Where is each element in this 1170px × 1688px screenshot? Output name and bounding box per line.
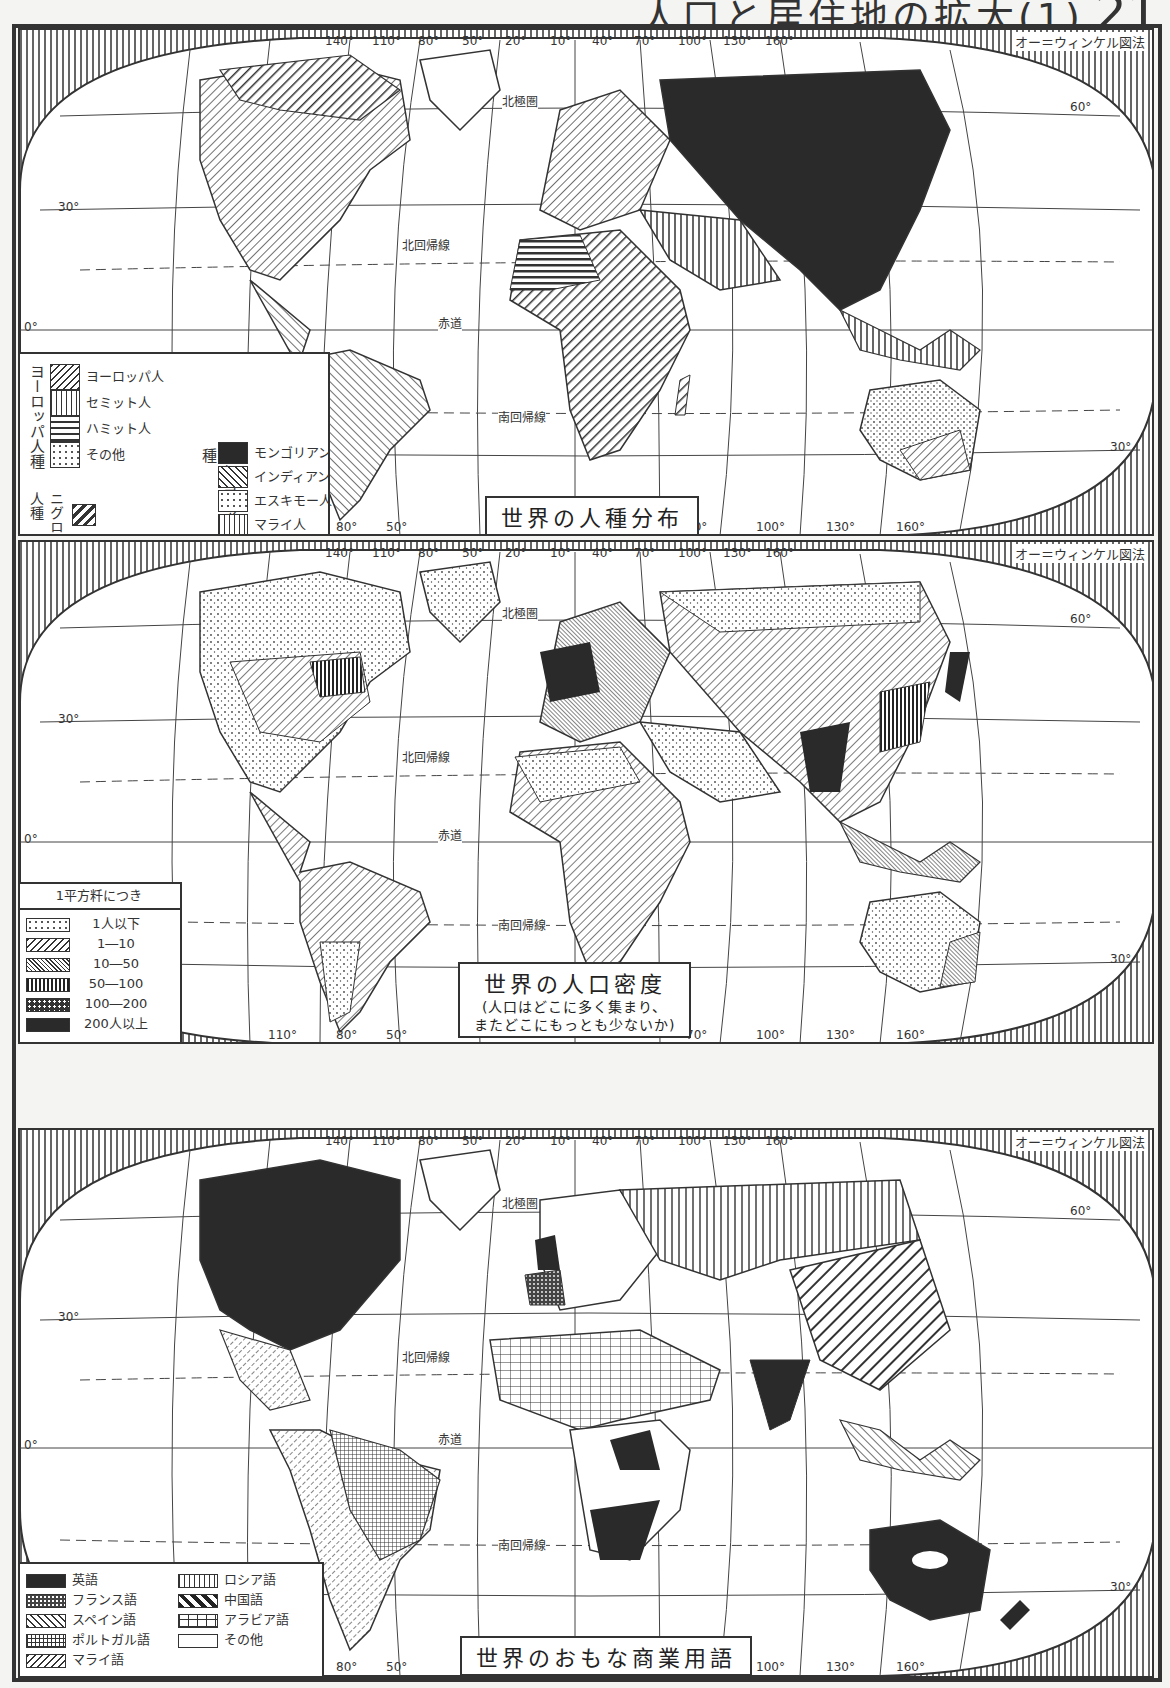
longitude-label: 140° (325, 1134, 354, 1148)
longitude-label: 70° (634, 1134, 655, 1148)
map-title-race: 世界の人種分布 (485, 496, 699, 536)
longitude-label: 110° (372, 34, 401, 48)
latitude-label: 0° (24, 1438, 38, 1452)
longitude-label: 110° (372, 1134, 401, 1148)
legend-item: 1人以下 (26, 914, 172, 934)
legend-race: ヨーロッパ人種 ヨーロッパ人 セミット人 ハミット人 その他 ニグロ人種 モンゴ… (18, 352, 330, 536)
tropic-cancer-label: 北回帰線 (402, 1348, 450, 1365)
latitude-label: 30° (1110, 1580, 1131, 1594)
legend-density: 1平方粁につき 1人以下 1―10 10―50 50―100 100―200 2… (18, 882, 182, 1044)
longitude-label: 130° (826, 1028, 855, 1042)
equator-label: 赤道 (438, 314, 462, 331)
tropic-capricorn-label: 南回帰線 (498, 408, 546, 425)
legend-item: 100―200 (26, 994, 172, 1014)
longitude-label: 20° (505, 546, 526, 560)
latitude-label: 0° (24, 832, 38, 846)
longitude-label: 100° (678, 546, 707, 560)
longitude-label: 130° (723, 546, 752, 560)
legend-item: ハミット人 (50, 416, 164, 436)
longitude-label: 160° (765, 1134, 794, 1148)
latitude-label: 0° (24, 320, 38, 334)
longitude-label: 20° (505, 34, 526, 48)
swatch-icon (26, 1574, 66, 1588)
latitude-label: 30° (58, 200, 79, 214)
longitude-label: 20° (505, 1134, 526, 1148)
longitude-label: 50° (386, 1660, 407, 1674)
legend-item: マライ人 (218, 514, 332, 534)
longitude-label: 110° (372, 546, 401, 560)
map-title-text: 世界の人口密度 (484, 972, 666, 997)
longitude-label: 80° (336, 520, 357, 534)
swatch-icon (26, 998, 70, 1012)
swatch-icon (50, 442, 80, 468)
tropic-cancer-label: 北回帰線 (402, 748, 450, 765)
swatch-icon (218, 514, 248, 536)
swatch-icon (72, 504, 96, 526)
swatch-icon (218, 442, 248, 464)
legend-item: 中国語 (178, 1590, 289, 1610)
longitude-label: 140° (325, 34, 354, 48)
swatch-icon (178, 1614, 218, 1628)
latitude-label: 60° (1070, 1204, 1091, 1218)
projection-label: オー＝ウィンケル図法 (1012, 1132, 1148, 1151)
swatch-icon (50, 390, 80, 416)
swatch-icon (178, 1634, 218, 1648)
latitude-label: 30° (1110, 952, 1131, 966)
arctic-circle-label: 北極圏 (502, 92, 538, 109)
swatch-icon (26, 938, 70, 952)
longitude-label: 80° (418, 34, 439, 48)
latitude-label: 30° (58, 1310, 79, 1324)
swatch-icon (26, 958, 70, 972)
latitude-label: 30° (58, 712, 79, 726)
longitude-label: 10° (550, 34, 571, 48)
legend-item: ロシア語 (178, 1570, 289, 1590)
legend-item: エスキモー人 (218, 490, 332, 510)
tropic-cancer-label: 北回帰線 (402, 236, 450, 253)
longitude-label: 130° (723, 34, 752, 48)
longitude-label: 160° (765, 546, 794, 560)
swatch-icon (178, 1574, 218, 1588)
longitude-label: 100° (756, 520, 785, 534)
longitude-label: 160° (896, 1028, 925, 1042)
longitude-label: 80° (418, 546, 439, 560)
longitude-label: 70° (634, 546, 655, 560)
longitude-label: 50° (386, 520, 407, 534)
legend-item: モンゴリアン (218, 442, 332, 462)
longitude-label: 40° (592, 546, 613, 560)
longitude-label: 40° (592, 34, 613, 48)
longitude-label: 70° (634, 34, 655, 48)
map-panel-language: 140° 110° 80° 50° 20° 10° 40° 70° 100° 1… (18, 1128, 1154, 1678)
tropic-capricorn-label: 南回帰線 (498, 1536, 546, 1553)
projection-label: オー＝ウィンケル図法 (1012, 32, 1148, 51)
swatch-icon (26, 978, 70, 992)
map-subtitle: (人口はどこに多く集まり、 (474, 998, 675, 1016)
swatch-icon (26, 1634, 66, 1648)
equator-label: 赤道 (438, 826, 462, 843)
longitude-label: 160° (896, 1660, 925, 1674)
latitude-label: 60° (1070, 612, 1091, 626)
longitude-label: 100° (756, 1660, 785, 1674)
legend-item: セミット人 (50, 390, 164, 410)
longitude-label: 160° (765, 34, 794, 48)
legend-item: ポルトガル語 (26, 1630, 150, 1650)
swatch-icon (26, 1654, 66, 1668)
legend-item: 英語 (26, 1570, 150, 1590)
longitude-label: 80° (336, 1028, 357, 1042)
legend-item: インディアン (218, 466, 332, 486)
swatch-icon (218, 466, 248, 488)
map-panel-density: 140° 110° 80° 50° 20° 10° 40° 70° 100° 1… (18, 540, 1154, 1044)
page-header: 人口と居住地の拡大(1) 21 (0, 0, 1170, 24)
legend-heading: 1平方粁につき (18, 884, 180, 910)
longitude-label: 10° (550, 546, 571, 560)
swatch-icon (26, 1018, 70, 1032)
legend-item: 200人以上 (26, 1014, 172, 1034)
swatch-icon (178, 1594, 218, 1608)
arctic-circle-label: 北極圏 (502, 1194, 538, 1211)
legend-item: その他 (50, 442, 164, 462)
longitude-label: 100° (678, 34, 707, 48)
swatch-icon (50, 416, 80, 442)
equator-label: 赤道 (438, 1430, 462, 1447)
map-title-language: 世界のおもな商業用語 (460, 1636, 752, 1676)
longitude-label: 40° (592, 1134, 613, 1148)
longitude-label: 130° (826, 520, 855, 534)
